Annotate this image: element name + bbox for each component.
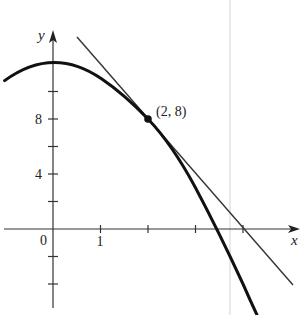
x-axis-label: x [290,232,298,248]
x-axis [4,225,300,233]
tangent-point-marker [144,115,152,123]
x-tick-label-1: 1 [97,234,104,249]
tangent-line [77,37,293,285]
point-label: (2, 8) [156,104,187,120]
parabola-curve [5,62,257,315]
diagram-canvas: (2, 8) y x 0 1 8 4 [0,0,301,315]
y-tick-label-8: 8 [35,112,42,127]
y-axis-label: y [36,27,45,43]
y-tick-label-4: 4 [35,167,42,182]
origin-label: 0 [40,233,47,248]
y-axis [48,30,58,308]
